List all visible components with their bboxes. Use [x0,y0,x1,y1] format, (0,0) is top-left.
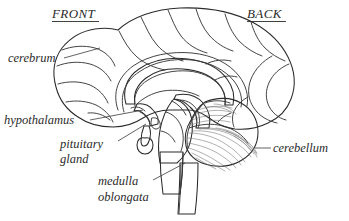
label-leader-lines [64,48,271,180]
medulla-oblongata-label-line2: oblongata [98,190,149,204]
hypothalamus-detail-1 [140,112,150,124]
medulla-oblongata-label-line1: medulla [98,174,138,188]
cerebellum-folium-l3 [188,143,236,168]
sulcus-frontal-5 [88,113,110,120]
pons-shape [159,99,193,163]
orientation-label-back: BACK [247,6,286,22]
pons-fold-2 [161,131,175,142]
leader-hypothalamus [90,110,143,120]
leader-cerebrum [64,48,100,58]
sulcus-occipital-2 [249,56,277,123]
pituitary-stalk [141,126,151,146]
brain-anatomy-illustration: FRONT BACK cerebrum hypothalamus pituita… [0,0,349,221]
front-label-text: FRONT [51,6,96,21]
back-label-text: BACK [247,6,283,21]
brain-diagram-figure: FRONT BACK cerebrum hypothalamus pituita… [0,0,349,221]
cerebellum-label-text: cerebellum [273,141,328,155]
sulcus-central-3 [168,10,207,53]
brainstem-region [159,99,193,163]
hypothalamus-label-text: hypothalamus [4,113,74,127]
corpus-callosum-shape [125,58,234,105]
sulcus-occipital-6 [206,60,231,64]
sulcus-occipital-3 [233,97,249,127]
medulla-oblongata-label: medulla oblongata [98,174,149,204]
cerebrum-label-text: cerebrum [8,51,55,65]
septum-line [137,90,199,104]
pituitary-gland-label-line1: pituitary [59,137,104,151]
sulcus-occipital-1 [266,64,289,120]
mammillary-body [151,118,160,129]
orientation-label-front: FRONT [51,6,99,22]
sulcus-frontal-3 [58,82,108,103]
sulcus-frontal-2 [57,62,111,81]
sulcus-central-4 [196,9,233,51]
sulcus-central-1 [119,31,165,70]
cerebellum-folium-l5 [192,153,225,171]
pons-fold-1 [166,112,183,151]
midbrain-junction [172,101,186,115]
sulcus-parietal-2 [251,22,285,61]
cerebellum-folium-l6 [196,158,216,169]
pituitary-gland-label-line2: gland [60,152,89,166]
pituitary-region [137,126,153,154]
pituitary-gland-label: pituitary gland [59,137,104,166]
